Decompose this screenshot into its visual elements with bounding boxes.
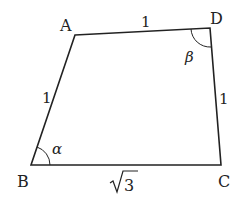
vertex-label-b: B (17, 172, 29, 191)
vertex-label-c: C (218, 172, 230, 191)
vertex-label-a: A (59, 16, 72, 35)
quadrilateral-diagram: A B C D 1 1 1 3 α β (0, 0, 242, 201)
angle-label-alpha: α (52, 140, 62, 158)
angle-arc-d (191, 29, 211, 47)
angle-label-beta: β (184, 48, 194, 66)
side-label-ab: 1 (42, 89, 52, 107)
side-label-bc: 3 (110, 171, 138, 195)
angle-arc-b (37, 147, 50, 165)
side-label-bc-value: 3 (124, 176, 134, 195)
vertex-label-d: D (210, 9, 223, 28)
side-label-ad: 1 (141, 13, 151, 31)
side-label-dc: 1 (219, 90, 229, 108)
